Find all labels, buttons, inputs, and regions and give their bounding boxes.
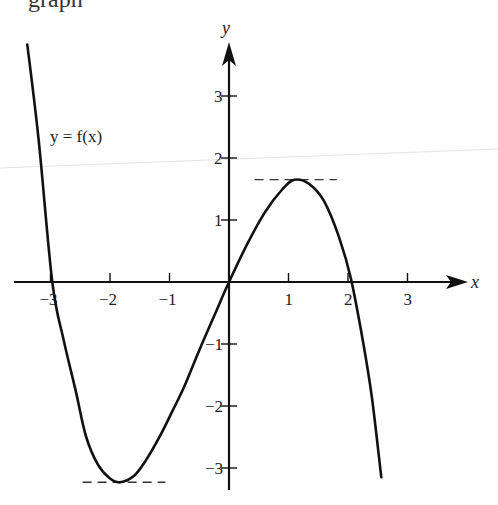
x-tick-label: 2 [344, 290, 353, 309]
y-tick-label: −2 [205, 397, 223, 416]
y-axis-label: y [220, 18, 230, 38]
extremum-dashed-lines [83, 180, 337, 483]
y-tick-label: 3 [214, 87, 223, 106]
x-tick-label: −1 [159, 290, 177, 309]
scan-artifact-line [0, 149, 498, 168]
y-tick-label: 1 [214, 211, 223, 230]
x-tick-label: 1 [285, 290, 294, 309]
x-axis-label: x [470, 272, 479, 292]
function-graph: −3−2−1123−3−2−1123 x y y = f(x) [0, 0, 498, 505]
y-tick-label: 2 [214, 149, 223, 168]
x-tick-label: −2 [99, 290, 117, 309]
x-tick-label: 3 [404, 290, 413, 309]
y-tick-label: −1 [205, 335, 223, 354]
function-label: y = f(x) [50, 127, 102, 146]
y-tick-label: −3 [205, 459, 223, 478]
function-curve [27, 45, 381, 483]
